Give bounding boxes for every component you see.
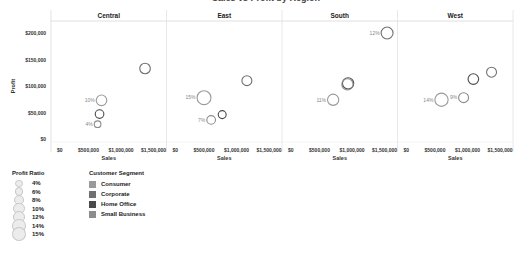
y-axis-label: Profit <box>10 79 16 94</box>
x-tick-label: $1,500,000 <box>372 147 397 153</box>
segment-legend-item[interactable]: Corporate <box>89 189 145 199</box>
size-legend-label: 10% <box>32 206 44 212</box>
segment-legend-label: Home Office <box>101 201 136 207</box>
data-point <box>435 93 448 106</box>
facet-header-central: Central <box>98 12 121 19</box>
y-tick-label: $50,000 <box>28 110 46 116</box>
data-label: 7% <box>198 117 206 123</box>
data-label: 12% <box>370 30 381 36</box>
color-swatch-icon <box>89 211 96 218</box>
profit-ratio-legend-title: Profit Ratio <box>12 170 44 176</box>
data-point <box>218 111 226 119</box>
data-point <box>487 67 497 77</box>
x-tick-label: $0 <box>404 147 410 153</box>
size-legend-label: 8% <box>32 197 41 203</box>
data-label: 4% <box>86 121 94 127</box>
facet-header-west: West <box>448 12 464 19</box>
data-point <box>459 93 469 103</box>
data-point <box>207 116 216 125</box>
size-legend-label: 12% <box>32 214 44 220</box>
circle-size-icon <box>12 180 26 187</box>
profit-ratio-legend: Profit Ratio 4%6%8%10%12%14%15% <box>12 170 44 239</box>
data-point <box>242 76 252 86</box>
segment-legend-item[interactable]: Consumer <box>89 179 145 189</box>
segment-legend-item[interactable]: Small Business <box>89 209 145 219</box>
y-tick-label: $200,000 <box>25 30 46 36</box>
facet-header-south: South <box>331 12 349 19</box>
x-tick-label: $0 <box>288 147 294 153</box>
data-label: 15% <box>186 94 197 100</box>
chart-title: Sales vs Profit by Region <box>212 0 320 3</box>
segment-legend-label: Corporate <box>101 191 130 197</box>
size-legend-item: 15% <box>12 230 44 239</box>
faceted-scatter-chart: Sales vs Profit by Region CentralEastSou… <box>0 0 532 165</box>
data-point <box>94 121 101 128</box>
circle-size-icon <box>12 227 26 241</box>
color-swatch-icon <box>89 201 96 208</box>
x-axis-label: Sales <box>102 155 116 161</box>
size-legend-item: 4% <box>12 179 44 188</box>
customer-segment-legend: Customer Segment ConsumerCorporateHome O… <box>89 170 145 219</box>
color-swatch-icon <box>89 191 96 198</box>
x-tick-label: $0 <box>173 147 179 153</box>
segment-legend-label: Small Business <box>101 211 145 217</box>
data-point <box>197 91 211 105</box>
data-point <box>140 63 151 74</box>
data-point <box>342 79 353 90</box>
x-tick-label: $1,000,000 <box>339 147 364 153</box>
segment-legend-item[interactable]: Home Office <box>89 199 145 209</box>
x-tick-label: $1,000,000 <box>224 147 249 153</box>
x-axis-label: Sales <box>448 155 462 161</box>
x-tick-label: $500,000 <box>78 147 99 153</box>
data-label: 9% <box>450 94 458 100</box>
x-tick-label: $1,000,000 <box>455 147 480 153</box>
customer-segment-legend-title: Customer Segment <box>89 170 145 176</box>
data-point <box>381 27 393 39</box>
size-legend-label: 4% <box>32 180 41 186</box>
x-tick-label: $1,000,000 <box>108 147 133 153</box>
x-tick-label: $1,500,000 <box>141 147 166 153</box>
y-tick-label: $150,000 <box>25 57 46 63</box>
size-legend-label: 14% <box>32 223 44 229</box>
data-point <box>468 74 479 85</box>
y-tick-label: $100,000 <box>25 83 46 89</box>
x-tick-label: $1,500,000 <box>487 147 512 153</box>
x-tick-label: $0 <box>57 147 63 153</box>
data-point <box>95 110 104 119</box>
x-tick-label: $500,000 <box>309 147 330 153</box>
data-point <box>328 94 339 105</box>
data-label: 14% <box>423 97 434 103</box>
x-tick-label: $1,500,000 <box>256 147 281 153</box>
x-axis-label: Sales <box>217 155 231 161</box>
x-tick-label: $500,000 <box>425 147 446 153</box>
data-point <box>96 95 107 106</box>
color-swatch-icon <box>89 181 96 188</box>
facet-header-east: East <box>217 12 232 19</box>
x-tick-label: $500,000 <box>194 147 215 153</box>
segment-legend-label: Consumer <box>101 181 131 187</box>
x-axis-label: Sales <box>333 155 347 161</box>
size-legend-label: 15% <box>32 231 44 237</box>
y-tick-label: $0 <box>40 136 46 142</box>
data-label: 10% <box>85 97 96 103</box>
data-label: 11% <box>316 97 326 103</box>
size-legend-label: 6% <box>32 189 41 195</box>
